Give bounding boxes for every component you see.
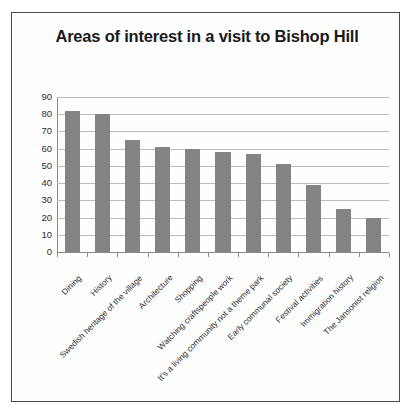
y-tick-label-10: 10 <box>24 230 52 240</box>
x-label: Watching craftspeople work <box>156 274 234 352</box>
x-label: It's a living community not a theme park <box>156 273 265 382</box>
y-tick-label-20: 20 <box>24 213 52 223</box>
x-tick <box>87 253 88 257</box>
y-tick-label-30: 30 <box>24 196 52 206</box>
x-tick <box>208 253 209 257</box>
y-tick-label-60: 60 <box>24 144 52 154</box>
bar <box>215 152 230 252</box>
x-tick <box>148 253 149 257</box>
x-label: Swedish heritage of the village <box>58 274 143 359</box>
x-label: Dining <box>60 274 83 297</box>
y-tick-label-0: 0 <box>24 247 52 257</box>
x-tick <box>117 253 118 257</box>
x-label: Festival activities <box>274 274 324 324</box>
chart-title: Areas of interest in a visit to Bishop H… <box>46 27 368 46</box>
chart-frame: Areas of interest in a visit to Bishop H… <box>11 12 400 402</box>
bar <box>306 185 321 252</box>
x-tick <box>178 253 179 257</box>
x-label: The Jansonist religion <box>322 274 385 337</box>
x-label: Early communal society <box>226 274 294 342</box>
bar <box>336 209 351 252</box>
x-tick <box>329 253 330 257</box>
bar <box>125 140 140 252</box>
x-label: Shopping <box>173 273 204 304</box>
x-tick <box>389 253 390 257</box>
x-axis-ticks <box>57 253 389 258</box>
bar <box>65 111 80 252</box>
y-tick-label-80: 80 <box>24 109 52 119</box>
y-tick-label-40: 40 <box>24 178 52 188</box>
bar <box>366 218 381 252</box>
bar <box>276 164 291 252</box>
x-tick <box>359 253 360 257</box>
y-axis-tick-labels: 0102030405060708090 <box>20 97 52 252</box>
y-tick-label-50: 50 <box>24 161 52 171</box>
x-tick <box>57 253 58 257</box>
y-tick-label-70: 70 <box>24 127 52 137</box>
y-tick-label-90: 90 <box>24 92 52 102</box>
x-label: Architecture <box>137 273 174 310</box>
x-tick <box>268 253 269 257</box>
x-label: Immigration history <box>299 273 354 328</box>
bar <box>246 154 261 252</box>
x-tick <box>298 253 299 257</box>
bar <box>155 147 170 252</box>
x-tick <box>238 253 239 257</box>
bar <box>95 114 110 252</box>
gridline-90 <box>57 97 389 98</box>
plot-area <box>57 97 389 252</box>
bar <box>185 149 200 252</box>
x-label: History <box>89 274 113 298</box>
